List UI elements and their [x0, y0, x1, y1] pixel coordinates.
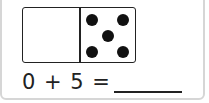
pip-dot-icon: [86, 46, 98, 58]
pip-dot-icon: [86, 14, 98, 26]
domino-tile: [22, 7, 136, 63]
pip-dot-icon: [117, 46, 129, 58]
pip-dot-icon: [117, 14, 129, 26]
addition-equation: 0 + 5 =: [22, 70, 111, 94]
domino-left-half-empty: [23, 8, 79, 62]
domino-right-half: [81, 8, 135, 62]
pip-dot-icon: [102, 30, 114, 42]
answer-blank-line[interactable]: [114, 91, 182, 93]
